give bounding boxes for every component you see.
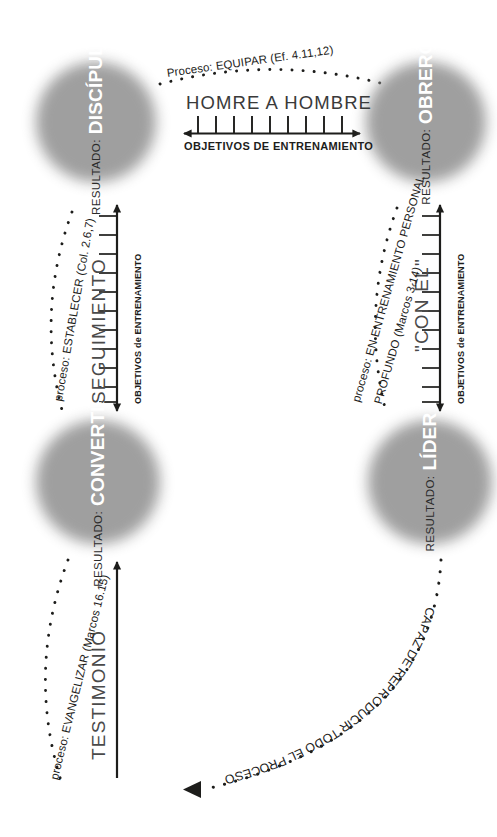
reproducir-curve-label: CAPAZ DE REPRODUCIR TODO EL PROCESO [0, 0, 497, 837]
diagram-canvas: RESULTADO: DISCÍPULO RESULTADO: OBRERO R… [0, 0, 497, 837]
